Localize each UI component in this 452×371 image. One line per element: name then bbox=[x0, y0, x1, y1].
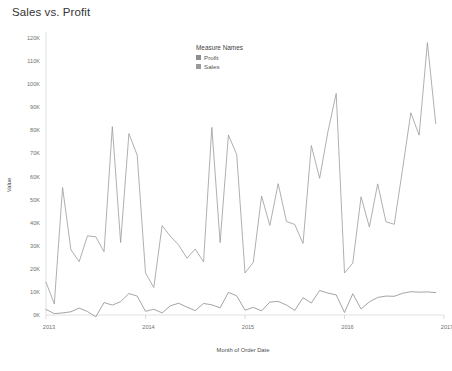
y-axis-tick-label: 70K bbox=[30, 150, 40, 156]
y-axis-tick-label: 50K bbox=[30, 197, 40, 203]
y-axis-tick-label: 80K bbox=[30, 127, 40, 133]
y-axis-title: Value bbox=[6, 178, 12, 192]
x-axis-tick-label: 2017 bbox=[441, 324, 452, 330]
y-axis-tick-label: 30K bbox=[30, 243, 40, 249]
y-axis-tick-label: 60K bbox=[30, 174, 40, 180]
y-axis-tick-label: 20K bbox=[30, 266, 40, 272]
y-axis: 0K10K20K30K40K50K60K70K80K90K100K110K120… bbox=[27, 32, 46, 318]
series-line-sales[interactable] bbox=[46, 43, 436, 304]
x-axis-tick-label: 2013 bbox=[43, 324, 55, 330]
y-axis-tick-label: 40K bbox=[30, 220, 40, 226]
x-axis-tick-label: 2016 bbox=[341, 324, 353, 330]
x-axis-tick-label: 2014 bbox=[142, 324, 154, 330]
x-axis-tick-label: 2015 bbox=[242, 324, 254, 330]
chart-series bbox=[46, 43, 436, 317]
x-axis-title: Month of Order Date bbox=[217, 347, 270, 353]
line-chart: 0K10K20K30K40K50K60K70K80K90K100K110K120… bbox=[0, 0, 452, 371]
series-line-profit[interactable] bbox=[46, 291, 436, 317]
y-axis-tick-label: 90K bbox=[30, 104, 40, 110]
y-axis-tick-label: 120K bbox=[27, 35, 40, 41]
y-axis-tick-label: 10K bbox=[30, 289, 40, 295]
y-axis-tick-label: 0K bbox=[33, 312, 40, 318]
y-axis-tick-label: 100K bbox=[27, 81, 40, 87]
x-axis: 20132014201520162017 bbox=[43, 315, 452, 330]
y-axis-tick-label: 110K bbox=[27, 58, 40, 64]
